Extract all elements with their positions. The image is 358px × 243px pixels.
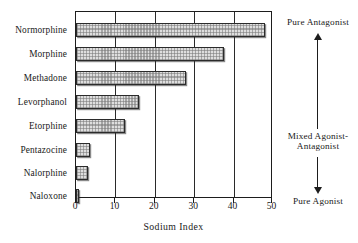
xtick-label-40: 40 [221,201,245,212]
gridline-40 [234,12,235,197]
plot-area [75,11,272,198]
x-axis-title: Sodium Index [75,221,272,232]
category-label-normorphine: Normorphine [15,25,67,35]
agonist-antagonist-annotations: Pure Antagonist Mixed Agonist- Antagonis… [278,11,358,206]
annotation-mixed-line1: Mixed Agonist- [278,131,358,142]
arrow-down-icon [314,187,322,194]
xtick-label-0: 0 [63,201,87,212]
bar-normorphine [76,23,265,37]
annotation-pure-agonist: Pure Agonist [278,196,358,207]
xtick-label-10: 10 [102,201,126,212]
arrow-up-shaft [317,39,318,129]
gridline-30 [194,12,195,197]
category-label-etorphine: Etorphine [29,121,67,131]
sodium-index-bar-chart: Normorphine Morphine Methadone Levorphan… [0,0,358,243]
xtick-label-20: 20 [142,201,166,212]
annotation-mixed-line2: Antagonist [278,141,358,152]
bar-pentazocine [76,143,90,157]
category-label-methadone: Methadone [24,73,67,83]
category-label-nalorphine: Nalorphine [24,168,67,178]
arrow-down-shaft [317,157,318,187]
category-axis-labels: Normorphine Morphine Methadone Levorphan… [0,11,71,198]
bar-etorphine [76,119,125,133]
category-label-naloxone: Naloxone [30,191,67,201]
bar-methadone [76,71,186,85]
annotation-pure-antagonist: Pure Antagonist [278,17,358,28]
bar-morphine [76,47,224,61]
gridline-20 [155,12,156,197]
bar-levorphanol [76,95,139,109]
bar-nalorphine [76,166,88,180]
category-label-morphine: Morphine [29,49,67,59]
xtick-label-30: 30 [181,201,205,212]
category-label-levorphanol: Levorphanol [18,97,67,107]
category-label-pentazocine: Pentazocine [20,145,67,155]
